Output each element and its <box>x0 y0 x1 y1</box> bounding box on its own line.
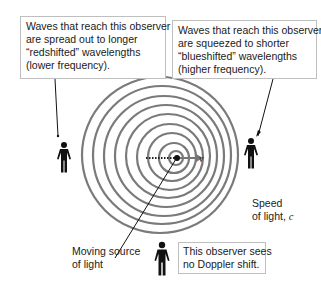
observer-bottom-icon <box>155 242 170 276</box>
callout-no-shift: This observer sees no Doppler shift. <box>178 242 266 274</box>
callout-text: “redshifted” wavelengths <box>26 46 160 59</box>
label-text: Speed <box>252 197 293 210</box>
callout-text: This observer sees <box>183 245 261 258</box>
label-moving-source: Moving source of light <box>72 245 140 271</box>
callout-blueshift: Waves that reach this observer are squee… <box>172 20 317 79</box>
label-text: of light, <box>252 210 289 222</box>
speed-symbol: c <box>289 211 294 222</box>
callout-text: “blueshifted” wavelengths <box>178 50 311 63</box>
callout-text: no Doppler shift. <box>183 258 261 271</box>
label-text: Moving source <box>72 245 140 258</box>
wavefront-rings <box>82 77 238 233</box>
callout-text: Waves that reach this observer <box>178 24 311 37</box>
callout-text: are squeezed to shorter <box>178 37 311 50</box>
callout-redshift: Waves that reach this observer are sprea… <box>20 16 166 79</box>
label-text: of light <box>72 258 140 271</box>
observer-left-icon <box>57 142 71 173</box>
velocity-symbol: v <box>199 153 204 164</box>
callout-text: Waves that reach this observer <box>26 20 160 33</box>
callout-text: are spread out to longer <box>26 33 160 46</box>
observer-right-icon <box>244 138 258 169</box>
callout-text: (lower frequency). <box>26 59 160 72</box>
callout-text: (higher frequency). <box>178 63 311 76</box>
label-speed-of-light: Speed of light, c <box>252 197 293 223</box>
